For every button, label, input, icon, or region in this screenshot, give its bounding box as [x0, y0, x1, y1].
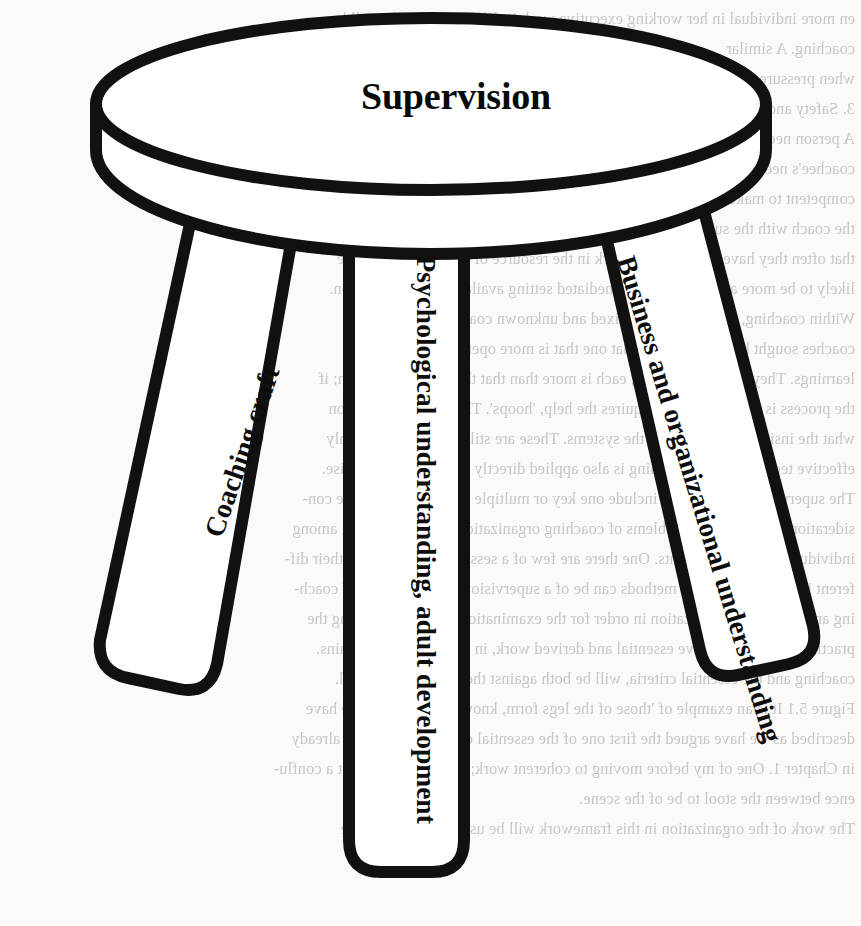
- stool-leg-centre: [349, 210, 464, 872]
- scanned-page: en more individual in her working execut…: [0, 0, 861, 926]
- seat-label-supervision: Supervision: [331, 74, 581, 118]
- stool-leg-right: [600, 196, 814, 676]
- three-legged-stool-figure: [0, 0, 861, 926]
- stool-leg-left: [100, 196, 296, 690]
